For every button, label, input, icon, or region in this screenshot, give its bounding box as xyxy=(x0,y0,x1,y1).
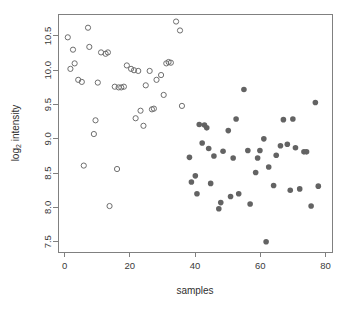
data-point xyxy=(290,116,296,122)
data-point xyxy=(95,80,100,85)
x-axis: 020406080 xyxy=(62,252,331,271)
plot-frame xyxy=(58,14,332,252)
data-point xyxy=(287,187,293,193)
data-point xyxy=(216,206,222,212)
axis-titles: sampleslog2 intensity xyxy=(10,105,214,296)
data-point xyxy=(228,194,234,200)
y-tick-label: 7.5 xyxy=(42,235,53,248)
data-point xyxy=(313,100,319,106)
x-tick-label: 20 xyxy=(124,260,135,271)
y-axis-title: log2 intensity xyxy=(10,105,22,162)
data-point xyxy=(179,103,184,108)
y-tick-label: 9.0 xyxy=(42,132,53,145)
data-point xyxy=(154,77,159,82)
data-point xyxy=(285,142,291,148)
y-tick-label: 10.0 xyxy=(42,61,53,80)
scatter-plot-figure: 7.58.08.59.09.510.010.5 020406080 sample… xyxy=(0,0,344,309)
data-point xyxy=(293,145,299,151)
data-point xyxy=(133,116,138,121)
data-point xyxy=(316,183,322,189)
data-point xyxy=(65,35,70,40)
data-point xyxy=(255,155,261,161)
data-point xyxy=(204,125,210,131)
data-point xyxy=(68,66,73,71)
data-point xyxy=(85,25,90,30)
data-point xyxy=(266,164,272,170)
data-point xyxy=(278,143,284,149)
data-point xyxy=(233,116,239,122)
data-point xyxy=(143,83,148,88)
data-point xyxy=(273,152,279,158)
data-point xyxy=(141,123,146,128)
plot-canvas: 7.58.08.59.09.510.010.5 020406080 sample… xyxy=(0,0,344,309)
data-point xyxy=(247,201,253,207)
data-point xyxy=(81,163,86,168)
data-point xyxy=(107,203,112,208)
x-tick-label: 60 xyxy=(255,260,266,271)
data-point xyxy=(297,186,303,192)
x-tick-label: 80 xyxy=(320,260,331,271)
y-tick-label: 10.5 xyxy=(42,27,53,46)
data-point xyxy=(304,149,310,155)
y-tick-label: 9.5 xyxy=(42,98,53,111)
data-point xyxy=(263,239,269,245)
data-point xyxy=(161,92,166,97)
y-axis-title-rest: intensity xyxy=(10,105,21,144)
y-axis-title-base: log xyxy=(10,148,21,161)
y-tick-label: 8.0 xyxy=(42,201,53,214)
data-point xyxy=(211,153,217,159)
data-point xyxy=(220,148,226,154)
data-point xyxy=(87,44,92,49)
data-points-layer xyxy=(65,19,321,245)
data-point xyxy=(189,179,195,185)
plot-box-border xyxy=(58,14,332,252)
data-point xyxy=(177,28,182,33)
data-point xyxy=(173,19,178,24)
data-point xyxy=(241,87,247,93)
x-tick-label: 0 xyxy=(62,260,67,271)
data-point xyxy=(308,203,314,209)
data-point xyxy=(147,68,152,73)
x-axis-title: samples xyxy=(176,285,213,296)
data-point xyxy=(245,148,251,154)
data-point xyxy=(281,117,287,123)
data-point xyxy=(218,200,224,206)
data-point xyxy=(138,108,143,113)
data-point xyxy=(230,155,236,161)
data-point xyxy=(261,136,267,142)
data-point xyxy=(271,183,277,189)
data-point xyxy=(236,191,242,197)
data-point xyxy=(91,131,96,136)
data-point xyxy=(225,128,231,134)
data-point xyxy=(72,61,77,66)
data-point xyxy=(194,191,200,197)
data-point xyxy=(199,140,205,146)
data-point xyxy=(257,148,263,154)
data-point xyxy=(187,155,193,161)
x-tick-label: 40 xyxy=(190,260,201,271)
data-point xyxy=(114,166,119,171)
data-point xyxy=(70,47,75,52)
data-point xyxy=(253,170,259,176)
y-axis: 7.58.08.59.09.510.010.5 xyxy=(42,27,58,249)
data-point xyxy=(206,146,212,152)
data-point xyxy=(93,118,98,123)
data-point xyxy=(193,173,199,179)
y-tick-label: 8.5 xyxy=(42,167,53,180)
data-point xyxy=(208,181,214,187)
data-point xyxy=(158,72,163,77)
data-point xyxy=(196,122,202,128)
